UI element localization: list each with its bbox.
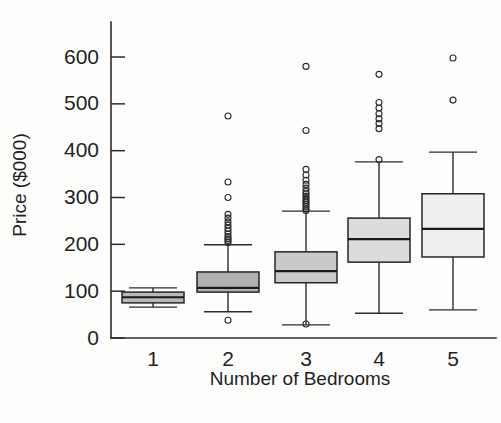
boxplot-canvas: 0100200300400500600 12345 Price ($000) N… [0, 0, 501, 423]
box-plot-group [348, 71, 410, 313]
y-axis-title: Price ($000) [9, 133, 30, 237]
outlier-point [225, 195, 231, 201]
box-body [197, 272, 259, 292]
box-body [275, 252, 337, 283]
y-tick-label: 500 [64, 91, 99, 114]
outlier-point [225, 211, 231, 217]
outlier-point [450, 55, 456, 61]
y-tick-label: 100 [64, 279, 99, 302]
box-plot-group [197, 113, 259, 323]
y-tick-label: 200 [64, 232, 99, 255]
outlier-point [450, 97, 456, 103]
y-axis-ticks: 0100200300400500600 [64, 45, 125, 349]
x-tick-label: 1 [147, 347, 159, 370]
outlier-point [225, 317, 231, 323]
box-body [422, 194, 484, 257]
y-tick-label: 400 [64, 138, 99, 161]
box-plot-group [122, 288, 184, 307]
y-tick-label: 300 [64, 185, 99, 208]
x-tick-label: 2 [222, 347, 234, 370]
outlier-point [225, 113, 231, 119]
x-axis-ticks: 12345 [147, 347, 459, 370]
x-tick-label: 3 [300, 347, 312, 370]
boxplot-figure: 0100200300400500600 12345 Price ($000) N… [0, 0, 501, 423]
y-tick-label: 0 [87, 326, 99, 349]
outlier-point [225, 179, 231, 185]
box-plot-group [422, 55, 484, 310]
outlier-point [303, 128, 309, 134]
box-plot-group [275, 63, 337, 327]
outlier-point [376, 71, 382, 77]
x-tick-label: 4 [373, 347, 385, 370]
y-tick-label: 600 [64, 45, 99, 68]
x-axis-title: Number of Bedrooms [210, 368, 391, 389]
x-tick-label: 5 [447, 347, 459, 370]
box-plot-series [122, 55, 484, 327]
outlier-point [303, 63, 309, 69]
